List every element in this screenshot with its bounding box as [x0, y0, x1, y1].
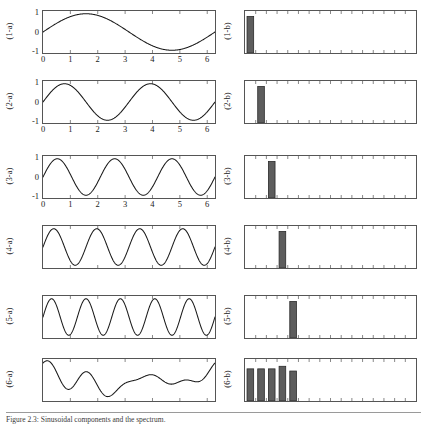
figure-row: (1-a)10-10123456(1-b) — [0, 10, 427, 72]
frequency-spectrum-plot — [244, 358, 417, 402]
time-domain-plot — [42, 10, 216, 54]
frequency-spectrum-plot — [244, 155, 417, 199]
x-tick-label: 3 — [123, 125, 127, 134]
x-tick-label: 4 — [150, 125, 154, 134]
x-tick-label: 0 — [41, 200, 45, 209]
x-tick-label: 6 — [205, 125, 209, 134]
figure-caption: Figure 2.3: Sinusoidal components and th… — [6, 415, 421, 424]
y-tick-label: 1 — [35, 8, 39, 17]
row-label-left: (4-a) — [4, 228, 14, 264]
y-tick-label: -1 — [32, 47, 39, 56]
frequency-spectrum-plot — [244, 225, 417, 269]
y-tick-label: -1 — [32, 192, 39, 201]
x-tick-label: 6 — [205, 200, 209, 209]
x-tick-label: 2 — [96, 55, 100, 64]
y-tick-label: 0 — [35, 173, 39, 182]
y-tick-label: 0 — [35, 98, 39, 107]
row-label-right: (1-b) — [222, 13, 232, 49]
x-tick-label: 5 — [178, 200, 182, 209]
x-tick-label: 6 — [205, 55, 209, 64]
x-axis-labels: 0123456 — [42, 55, 216, 67]
x-tick-label: 0 — [41, 125, 45, 134]
y-tick-label: -1 — [32, 117, 39, 126]
time-domain-plot — [42, 358, 216, 402]
x-axis-labels: 0123456 — [42, 200, 216, 212]
row-label-right: (2-b) — [222, 83, 232, 119]
figure-row: (6-a)(6-b) — [0, 358, 427, 420]
x-tick-label: 4 — [150, 200, 154, 209]
x-tick-label: 1 — [68, 55, 72, 64]
x-tick-label: 2 — [96, 200, 100, 209]
y-tick-label: 1 — [35, 78, 39, 87]
x-tick-label: 3 — [123, 200, 127, 209]
x-tick-label: 3 — [123, 55, 127, 64]
x-axis-labels: 0123456 — [42, 125, 216, 137]
x-tick-label: 5 — [178, 55, 182, 64]
frequency-spectrum-plot — [244, 10, 417, 54]
caption-rule — [6, 412, 421, 413]
row-label-right: (4-b) — [222, 228, 232, 264]
row-label-left: (5-a) — [4, 298, 14, 334]
x-tick-label: 1 — [68, 200, 72, 209]
figure-row: (4-a)(4-b) — [0, 225, 427, 287]
x-tick-label: 0 — [41, 55, 45, 64]
x-tick-label: 5 — [178, 125, 182, 134]
frequency-spectrum-plot — [244, 295, 417, 339]
row-label-right: (5-b) — [222, 298, 232, 334]
row-label-right: (3-b) — [222, 158, 232, 194]
row-label-left: (6-a) — [4, 361, 14, 397]
time-domain-plot — [42, 295, 216, 339]
x-tick-label: 4 — [150, 55, 154, 64]
time-domain-plot — [42, 225, 216, 269]
x-tick-label: 1 — [68, 125, 72, 134]
frequency-spectrum-plot — [244, 80, 417, 124]
y-axis-labels: 10-1 — [0, 80, 41, 124]
time-domain-plot — [42, 155, 216, 199]
y-axis-labels: 10-1 — [0, 10, 41, 54]
row-label-right: (6-b) — [222, 361, 232, 397]
x-tick-label: 2 — [96, 125, 100, 134]
figure-row: (5-a)(5-b) — [0, 295, 427, 357]
y-axis-labels: 10-1 — [0, 155, 41, 199]
figure-row: (3-a)10-10123456(3-b) — [0, 155, 427, 217]
y-tick-label: 0 — [35, 28, 39, 37]
y-tick-label: 1 — [35, 153, 39, 162]
figure-row: (2-a)10-10123456(2-b) — [0, 80, 427, 142]
time-domain-plot — [42, 80, 216, 124]
